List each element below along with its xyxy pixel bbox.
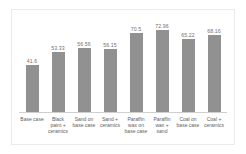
bar-slot: 41.6 — [19, 14, 45, 112]
chart-frame: 41.6 53.33 56.56 56.15 70.5 72.96 — [11, 9, 235, 145]
bar-slot: 72.96 — [149, 14, 175, 112]
bar[interactable] — [182, 39, 195, 112]
category-label: Sand on base case — [71, 114, 97, 144]
bar-value-label: 72.96 — [155, 23, 168, 29]
bar[interactable] — [104, 49, 117, 112]
category-label: Sand + ceramics — [97, 114, 123, 144]
bar[interactable] — [26, 65, 39, 112]
bar-slot: 53.33 — [45, 14, 71, 112]
bar-value-label: 70.5 — [131, 26, 142, 32]
category-label: Paraffin wax + sand — [149, 114, 175, 144]
bar[interactable] — [130, 33, 143, 112]
bar[interactable] — [52, 52, 65, 112]
bar-value-label: 68.16 — [207, 28, 220, 34]
bar-value-label: 56.56 — [77, 41, 90, 47]
bar[interactable] — [208, 35, 221, 112]
bar[interactable] — [78, 48, 91, 112]
category-label: Coal on base case — [175, 114, 201, 144]
bar-slot: 70.5 — [123, 14, 149, 112]
bar-value-label: 41.6 — [27, 58, 38, 64]
bar-slot: 65.22 — [175, 14, 201, 112]
bar-slot: 56.56 — [71, 14, 97, 112]
bar-slot: 68.16 — [201, 14, 227, 112]
category-label: Base case — [19, 114, 45, 144]
category-label: Black paint + ceramics — [45, 114, 71, 144]
x-axis-line — [19, 112, 227, 113]
x-axis-categories: Base case Black paint + ceramics Sand on… — [19, 114, 227, 144]
bar-slot: 56.15 — [97, 14, 123, 112]
category-label: Paraffin wax on base case — [123, 114, 149, 144]
plot-area: 41.6 53.33 56.56 56.15 70.5 72.96 — [19, 14, 227, 112]
bar-value-label: 65.22 — [181, 32, 194, 38]
category-label: Coal + ceramics — [201, 114, 227, 144]
bar[interactable] — [156, 30, 169, 112]
bar-value-label: 53.33 — [51, 45, 64, 51]
bar-value-label: 56.15 — [103, 42, 116, 48]
chart-figure: 41.6 53.33 56.56 56.15 70.5 72.96 — [0, 0, 246, 154]
